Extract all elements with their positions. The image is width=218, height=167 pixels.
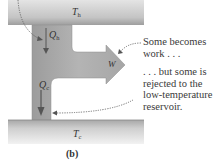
cold-reservoir-label: Tc (73, 128, 81, 140)
figure-caption: (b) (66, 148, 78, 159)
hot-reservoir-label: Th (72, 6, 81, 18)
leader-work (121, 43, 141, 51)
work-label: W (108, 59, 116, 69)
heat-out-label: Qc (39, 79, 49, 91)
annotation-rejected: . . . but some is rejected to the low-te… (143, 66, 212, 112)
annotation-work: Some becomes work . . . (143, 36, 206, 59)
leader-rejected (55, 100, 133, 113)
heat-in-label: Qh (49, 29, 59, 41)
